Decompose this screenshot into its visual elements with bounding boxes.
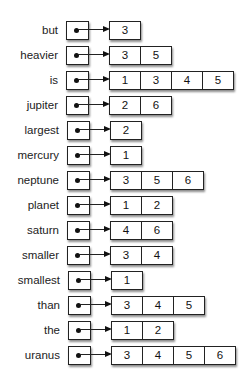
index-row: jupiter26 <box>0 96 251 114</box>
arrow-line <box>78 79 104 80</box>
arrow-line <box>79 204 105 205</box>
value-cell: 2 <box>142 197 172 214</box>
index-row: smallest1 <box>2 271 251 289</box>
value-cell: 4 <box>143 297 174 314</box>
value-cell: 1 <box>111 147 141 164</box>
arrow-line <box>78 54 104 55</box>
pointer-box <box>66 96 89 115</box>
value-cell: 4 <box>143 347 174 364</box>
key-label: planet <box>28 197 59 213</box>
value-cell: 6 <box>141 97 171 114</box>
value-cell: 4 <box>172 72 203 89</box>
value-list: 356 <box>110 171 204 190</box>
value-cell: 3 <box>112 297 143 314</box>
value-list: 345 <box>111 296 205 315</box>
pointer-box <box>66 46 89 65</box>
arrow-line <box>79 229 105 230</box>
value-list: 1345 <box>109 71 234 90</box>
value-list: 1 <box>111 271 143 290</box>
key-label: is <box>50 72 58 88</box>
value-list: 12 <box>110 196 173 215</box>
pointer-box <box>68 296 91 315</box>
value-cell: 5 <box>203 72 233 89</box>
value-cell: 2 <box>111 122 141 139</box>
pointer-box <box>67 146 90 165</box>
value-cell: 5 <box>142 172 173 189</box>
value-list: 26 <box>109 96 172 115</box>
key-label: jupiter <box>27 97 58 113</box>
key-label: smallest <box>18 272 60 288</box>
pointer-box <box>66 71 89 90</box>
key-label: the <box>44 322 60 338</box>
pointer-box <box>67 121 90 140</box>
value-cell: 6 <box>173 172 203 189</box>
arrow-line <box>80 304 106 305</box>
index-row: heavier35 <box>0 46 251 64</box>
value-cell: 3 <box>112 347 143 364</box>
key-label: largest <box>24 122 59 138</box>
value-cell: 5 <box>141 47 171 64</box>
key-label: uranus <box>25 347 60 363</box>
arrow-line <box>78 29 104 30</box>
index-row: than345 <box>2 296 251 314</box>
index-row: but3 <box>0 21 251 39</box>
value-list: 46 <box>110 221 173 240</box>
pointer-box <box>66 21 89 40</box>
value-cell: 3 <box>110 22 140 39</box>
value-list: 12 <box>111 321 174 340</box>
arrow-line <box>80 279 106 280</box>
index-row: saturn46 <box>1 221 251 239</box>
arrow-line <box>79 254 105 255</box>
key-label: than <box>38 297 60 313</box>
pointer-box <box>67 221 90 240</box>
value-list: 34 <box>110 246 173 265</box>
value-cell: 6 <box>142 222 172 239</box>
pointer-box <box>67 171 90 190</box>
value-list: 1 <box>110 146 142 165</box>
index-row: uranus3456 <box>2 346 251 364</box>
value-cell: 1 <box>112 272 142 289</box>
key-label: heavier <box>20 47 58 63</box>
value-list: 3456 <box>111 346 236 365</box>
index-row: is1345 <box>0 71 251 89</box>
key-label: neptune <box>17 172 59 188</box>
pointer-box <box>68 271 91 290</box>
index-row: planet12 <box>1 196 251 214</box>
arrow-line <box>79 179 105 180</box>
value-list: 35 <box>109 46 172 65</box>
index-row: neptune356 <box>1 171 251 189</box>
pointer-box <box>68 321 91 340</box>
pointer-box <box>67 196 90 215</box>
index-row: largest2 <box>1 121 251 139</box>
arrow-line <box>80 354 106 355</box>
value-cell: 1 <box>111 197 142 214</box>
pointer-box <box>68 346 91 365</box>
value-cell: 5 <box>174 347 205 364</box>
value-cell: 3 <box>141 72 172 89</box>
arrow-line <box>79 129 105 130</box>
inverted-index-diagram: but3heavier35is1345jupiter26largest2merc… <box>0 0 251 389</box>
value-list: 2 <box>110 121 142 140</box>
value-cell: 2 <box>143 322 173 339</box>
index-row: the12 <box>2 321 251 339</box>
value-cell: 4 <box>111 222 142 239</box>
pointer-box <box>67 246 90 265</box>
arrow-line <box>80 329 106 330</box>
value-cell: 5 <box>174 297 204 314</box>
key-label: saturn <box>27 222 59 238</box>
value-cell: 1 <box>112 322 143 339</box>
value-cell: 3 <box>110 47 141 64</box>
key-label: but <box>42 22 58 38</box>
key-label: mercury <box>17 147 59 163</box>
value-cell: 1 <box>110 72 141 89</box>
index-row: smaller34 <box>1 246 251 264</box>
value-cell: 3 <box>111 247 142 264</box>
arrow-line <box>78 104 104 105</box>
value-cell: 6 <box>205 347 235 364</box>
value-cell: 3 <box>111 172 142 189</box>
value-list: 3 <box>109 21 141 40</box>
key-label: smaller <box>22 247 59 263</box>
value-cell: 2 <box>110 97 141 114</box>
arrow-line <box>79 154 105 155</box>
value-cell: 4 <box>142 247 172 264</box>
